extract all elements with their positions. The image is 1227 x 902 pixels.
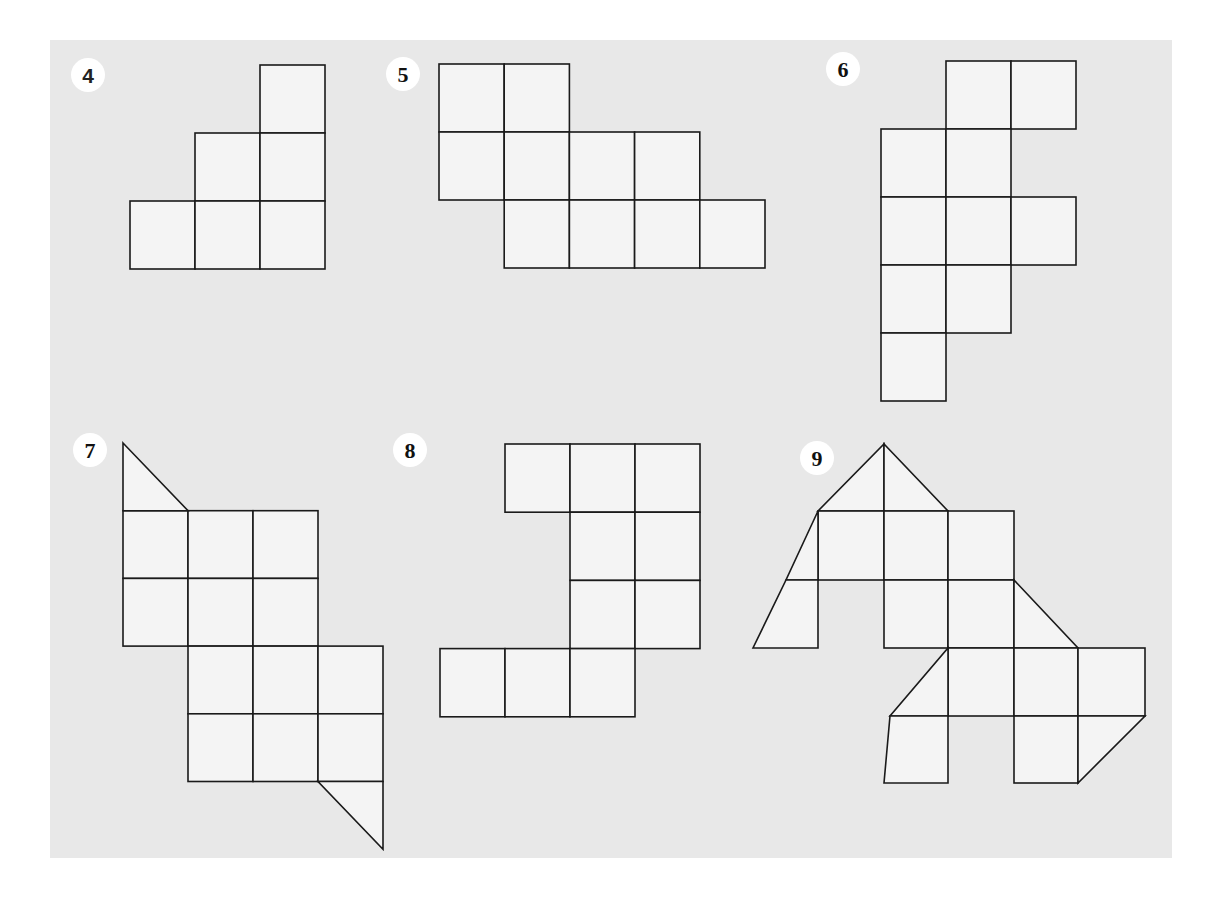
net-square [123,578,188,646]
net-square [253,511,318,579]
net-square [948,580,1014,648]
figure-number: 6 [838,57,849,82]
net-square [123,511,188,579]
net-square [635,200,700,268]
net-square [700,200,765,268]
net-square [881,265,946,333]
figure-number: 9 [812,446,823,471]
figure-number: 7 [85,438,96,463]
net-square [188,578,253,646]
net-square [253,646,318,714]
net-square [569,200,634,268]
net-square [1078,648,1145,716]
net-square [260,133,325,201]
net-square [253,714,318,782]
net-square [1014,716,1078,783]
net-square [188,714,253,782]
net-square [1011,61,1076,129]
net-square [946,129,1011,197]
net-triangle [884,716,948,783]
figure-number: 5 [398,62,409,87]
net-square [260,65,325,133]
net-square [504,64,569,132]
net-square [635,512,700,580]
net-square [570,580,635,648]
net-square [318,646,383,714]
net-square [505,649,570,717]
net-square [504,132,569,200]
net-square [439,64,504,132]
net-square [635,132,700,200]
net-square [188,511,253,579]
figure-number: 8 [405,438,416,463]
net-square [946,265,1011,333]
net-square [195,201,260,269]
net-square [1014,648,1078,716]
net-square [881,129,946,197]
net-square [188,646,253,714]
net-square [440,649,505,717]
net-square [570,444,635,512]
net-square [253,578,318,646]
net-square [260,201,325,269]
net-square [570,512,635,580]
worksheet: 456789 [0,0,1227,902]
net-square [1011,197,1076,265]
net-square [818,511,884,580]
net-square [946,197,1011,265]
net-square [439,132,504,200]
net-square [884,580,948,648]
net-square [881,197,946,265]
net-square [946,61,1011,129]
net-square [195,133,260,201]
net-square [635,444,700,512]
net-square [570,649,635,717]
net-square [130,201,195,269]
net-square [569,132,634,200]
figure-number: 4 [82,64,94,87]
net-square [505,444,570,512]
net-square [948,648,1014,716]
net-square [635,580,700,648]
net-square [504,200,569,268]
net-square [881,333,946,401]
net-square [318,714,383,782]
net-square [948,511,1014,580]
net-square [884,511,948,580]
